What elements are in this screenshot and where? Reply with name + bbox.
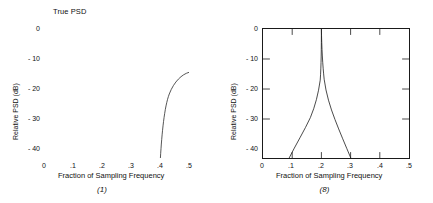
panel-1-hump-left	[160, 70, 189, 158]
panel-8-y-tick-minus10: - 10	[236, 55, 258, 62]
panel-1-x-tick-0: 0	[37, 162, 51, 169]
panel-1-y-tick-minus30: - 30	[18, 115, 40, 122]
panel-1-left-ticks	[45, 59, 52, 119]
panel-8-psd-left-limb	[289, 29, 321, 158]
panel-8-x-tick-0p3: .3	[343, 162, 357, 169]
panel-8-caption: (8)	[216, 185, 433, 194]
panel-8-x-tick-0p4: .4	[373, 162, 387, 169]
panel-8-plot-area	[262, 28, 410, 159]
panel-1-x-tick-0p4: .4	[153, 162, 167, 169]
panel-1-y-tick-minus40: - 40	[18, 145, 40, 152]
panel-8-y-tick-minus20: - 20	[236, 85, 258, 92]
panel-1-y-tick-minus20: - 20	[18, 85, 40, 92]
panel-8: Relative PSD (dB) 0 - 10 - 20 - 30 - 40	[216, 0, 433, 203]
panel-8-x-tick-0p2: .2	[314, 162, 328, 169]
panel-1-x-tick-0p5: .5	[182, 162, 196, 169]
panel-1-plot-inner	[45, 29, 189, 158]
panel-8-top-ticks	[292, 29, 380, 35]
panel-8-x-tick-0p1: .1	[284, 162, 298, 169]
panel-8-x-tick-0: 0	[255, 162, 269, 169]
panel-1-x-axis-title: Fraction of Sampling Frequency	[58, 171, 164, 180]
panel-1-x-tick-0p2: .2	[95, 162, 109, 169]
panel-8-psd-right-limb	[321, 29, 350, 158]
panel-1-x-tick-0p1: .1	[66, 162, 80, 169]
panel-1-x-tick-0p3: .3	[124, 162, 138, 169]
panel-8-right-ticks	[402, 59, 409, 119]
panel-1-y-tick-0: 0	[18, 25, 40, 32]
panel-8-left-ticks	[263, 59, 270, 119]
panel-8-bottom-ticks	[292, 152, 380, 158]
panel-8-data-svg	[263, 29, 409, 158]
panel-1-caption: (1)	[0, 185, 210, 194]
panel-1-data-svg	[45, 29, 189, 158]
panel-8-y-tick-minus30: - 30	[236, 115, 258, 122]
figure-container: True PSD Relative PSD (dB) 0 - 10 - 20 -…	[0, 0, 433, 203]
panel-1-plot-area	[44, 28, 190, 159]
panel-1-y-tick-minus10: - 10	[18, 55, 40, 62]
panel-8-y-tick-0: 0	[236, 25, 258, 32]
panel-1-top-ticks	[74, 29, 160, 35]
panel-8-y-tick-minus40: - 40	[236, 145, 258, 152]
panel-1: True PSD Relative PSD (dB) 0 - 10 - 20 -…	[0, 0, 216, 203]
panel-8-plot-inner	[263, 29, 409, 158]
panel-8-x-tick-0p5: .5	[402, 162, 416, 169]
panel-1-title: True PSD	[53, 7, 86, 16]
panel-1-bottom-ticks	[74, 152, 160, 158]
panel-1-right-ticks	[182, 59, 189, 119]
panel-8-x-axis-title: Fraction of Sampling Frequency	[276, 171, 382, 180]
